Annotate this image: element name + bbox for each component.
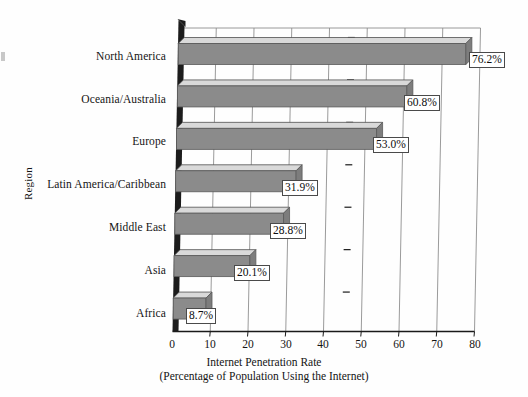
- ytick-label: Africa: [20, 307, 166, 319]
- x-axis-subtitle: (Percentage of Population Using the Inte…: [0, 369, 528, 383]
- gridline: [437, 28, 443, 332]
- x-tick: [474, 332, 475, 337]
- ytick-label: Latin America/Caribbean: [20, 178, 166, 190]
- x-tick: [210, 332, 211, 337]
- bar-value-label: 31.9%: [282, 180, 318, 196]
- xtick-label: 80: [460, 338, 490, 350]
- xtick-label: 10: [195, 338, 225, 350]
- x-tick: [323, 332, 324, 337]
- bar-value-label: 8.7%: [186, 308, 216, 324]
- x-axis-title: Internet Penetration Rate: [0, 355, 528, 369]
- gridline: [361, 28, 367, 332]
- bar-value-label: 20.1%: [234, 265, 270, 281]
- x-tick: [285, 332, 286, 337]
- bar-value-label: 53.0%: [373, 137, 409, 153]
- x-tick: [361, 332, 362, 337]
- xtick-label: 60: [384, 338, 414, 350]
- bar-value-label: 76.2%: [469, 52, 505, 68]
- bar: [177, 80, 413, 107]
- xtick-label: 50: [346, 338, 376, 350]
- y-axis-title: Region: [22, 167, 34, 200]
- xtick-label: 40: [308, 338, 338, 350]
- bar-value-label: 28.8%: [270, 223, 306, 239]
- x-tick: [248, 332, 249, 337]
- gridline: [324, 28, 330, 332]
- ytick-label: Europe: [20, 135, 166, 147]
- gridline: [475, 28, 481, 332]
- ytick-label: North America: [20, 50, 166, 62]
- bar-value-label: 60.8%: [404, 95, 440, 111]
- x-tick: [399, 332, 400, 337]
- bar: [177, 122, 383, 149]
- ytick-label: Asia: [20, 264, 166, 276]
- xtick-label: 20: [233, 338, 263, 350]
- chart-figure: North America Oceania/Australia Europe L…: [0, 0, 528, 397]
- gridline: [399, 28, 405, 332]
- ytick-label: Oceania/Australia: [20, 93, 166, 105]
- x-tick: [436, 332, 437, 337]
- xtick-label: 0: [157, 338, 187, 350]
- xtick-label: 30: [271, 338, 301, 350]
- bar: [178, 38, 472, 65]
- ytick-label: Middle East: [20, 221, 166, 233]
- xtick-label: 70: [422, 338, 452, 350]
